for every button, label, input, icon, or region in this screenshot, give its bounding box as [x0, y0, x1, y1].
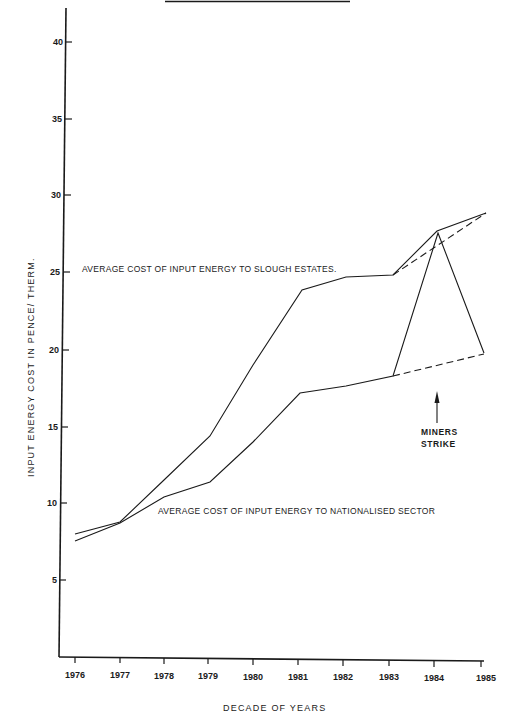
- x-tick-label: 1976: [65, 670, 85, 680]
- arrow-up-icon: [435, 391, 440, 423]
- x-tick-labels: 1976 1977 1978 1979 1980 1981 1982 1983 …: [65, 670, 496, 683]
- x-tick-label: 1982: [333, 672, 353, 682]
- y-tick-label: 35: [52, 114, 62, 124]
- x-tick-label: 1985: [476, 673, 496, 683]
- annotation-nationalised-sector: AVERAGE COST OF INPUT ENERGY TO NATIONAL…: [158, 506, 435, 516]
- series-nationalised-dashed-trend: [393, 354, 484, 376]
- x-tick-label: 1981: [288, 672, 308, 682]
- y-tick-label: 25: [50, 267, 60, 277]
- annotation-slough-estates: AVERAGE COST OF INPUT ENERGY TO SLOUGH E…: [82, 264, 337, 274]
- annotation-miners-strike-line2: STRIKE: [421, 439, 456, 449]
- series-nationalised-sector: [75, 233, 484, 541]
- y-tick-label: 40: [53, 37, 63, 47]
- y-tick-label: 10: [47, 498, 57, 508]
- y-tick-label: 20: [49, 345, 59, 355]
- x-tick-label: 1978: [154, 671, 174, 681]
- series-slough-dashed-trend: [393, 213, 486, 275]
- x-tick-label: 1983: [379, 672, 399, 682]
- y-tick-label: 30: [51, 190, 61, 200]
- y-axis: [59, 8, 66, 657]
- x-axis-title: DECADE OF YEARS: [223, 703, 326, 713]
- x-tick-label: 1977: [110, 670, 130, 680]
- y-tick-label: 5: [52, 575, 57, 585]
- x-tick-label: 1980: [243, 672, 263, 682]
- line-chart: 5 10 15 20 25 30 35 40 1976 1977 1978 19…: [0, 0, 516, 724]
- x-axis: [59, 657, 484, 661]
- x-tick-label: 1979: [198, 671, 218, 681]
- y-tick-label: 15: [48, 422, 58, 432]
- x-tick-label: 1984: [424, 673, 444, 683]
- y-axis-title: INPUT ENERGY COST IN PENCE/ THERM.: [26, 257, 36, 477]
- annotation-miners-strike-line1: MINERS: [421, 427, 458, 437]
- series-slough-estates: [75, 213, 486, 534]
